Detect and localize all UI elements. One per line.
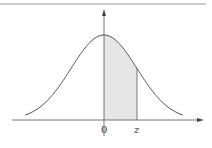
origin-label: 0 — [101, 124, 107, 135]
x-axis-arrow-icon — [197, 118, 204, 122]
z-label: z — [133, 124, 140, 135]
shaded-area — [104, 35, 137, 120]
normal-curve-chart: 0 z — [0, 0, 212, 148]
y-axis-arrow-icon — [102, 9, 106, 16]
